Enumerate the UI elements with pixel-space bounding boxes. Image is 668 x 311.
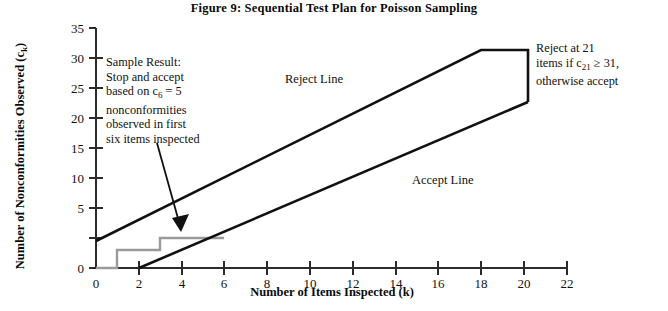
y-tick-label: 15 bbox=[71, 141, 84, 156]
x-tick-label: 12 bbox=[347, 276, 360, 291]
x-tick-label: 8 bbox=[264, 276, 271, 291]
y-tick-label: 10 bbox=[71, 171, 84, 186]
sample-result-step-path bbox=[96, 238, 224, 268]
x-tick-label: 16 bbox=[432, 276, 446, 291]
accept-line-label: Accept Line bbox=[412, 173, 473, 188]
x-tick-label: 0 bbox=[93, 276, 100, 291]
sample-result-line-3: based on c6 = 5 bbox=[106, 84, 200, 103]
reject-note-line-2-subscript: 21 bbox=[582, 62, 591, 72]
x-tick-label: 22 bbox=[561, 276, 574, 291]
reject-note-line-3: otherwise accept bbox=[536, 74, 619, 89]
sample-result-line-1: Sample Result: bbox=[106, 55, 200, 70]
reject-note-line-2-a: items if c bbox=[536, 56, 582, 70]
annotation-sample-result: Sample Result: Stop and accept based on … bbox=[106, 55, 200, 147]
figure-container: Figure 9: Sequential Test Plan for Poiss… bbox=[0, 0, 668, 311]
reject-note-line-2: items if c21 ≥ 31, bbox=[536, 56, 619, 75]
sample-result-line-2: Stop and accept bbox=[106, 70, 200, 85]
reject-line-label: Reject Line bbox=[285, 72, 343, 87]
y-tick-label: 30 bbox=[71, 51, 84, 66]
y-tick-label: 25 bbox=[71, 81, 84, 96]
sample-result-line-5: observed in first bbox=[106, 117, 200, 132]
sample-result-line-4: nonconformities bbox=[106, 103, 200, 118]
sample-result-line-6: six items inspected bbox=[106, 132, 200, 147]
annotation-arrow bbox=[157, 143, 189, 232]
sample-result-line-3-b: = 5 bbox=[162, 84, 181, 98]
y-tick-label: 5 bbox=[78, 201, 85, 216]
reject-note-line-1: Reject at 21 bbox=[536, 41, 619, 56]
x-tick-label: 2 bbox=[136, 276, 143, 291]
y-tick-label: 0 bbox=[78, 261, 85, 276]
x-tick-label: 10 bbox=[304, 276, 317, 291]
y-tick-label: 35 bbox=[71, 21, 84, 36]
x-tick-label: 6 bbox=[221, 276, 228, 291]
x-tick-label: 14 bbox=[390, 276, 404, 291]
x-tick-label: 20 bbox=[518, 276, 531, 291]
x-axis-tick-labels: 0 2 4 6 8 10 12 14 16 18 20 22 bbox=[93, 276, 574, 291]
y-tick-label: 20 bbox=[71, 111, 84, 126]
sample-result-line-3-a: based on c bbox=[106, 84, 158, 98]
y-axis-tick-labels: 35 30 25 20 15 10 5 0 bbox=[71, 21, 84, 276]
x-tick-label: 18 bbox=[475, 276, 488, 291]
reject-note-line-2-b: ≥ 31, bbox=[591, 56, 619, 70]
annotation-reject-note: Reject at 21 items if c21 ≥ 31, otherwis… bbox=[536, 41, 619, 89]
x-tick-label: 4 bbox=[179, 276, 186, 291]
